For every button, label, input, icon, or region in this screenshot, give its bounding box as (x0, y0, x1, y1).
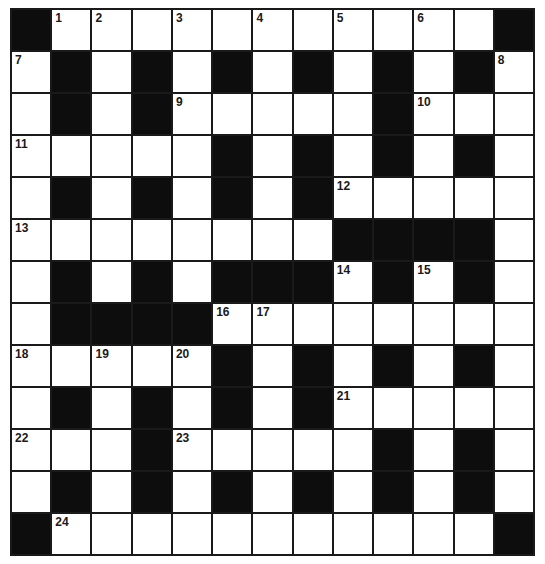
answer-cell[interactable] (253, 52, 291, 92)
answer-cell[interactable]: 4 (253, 10, 291, 50)
answer-cell[interactable] (334, 472, 372, 512)
answer-cell[interactable] (52, 220, 90, 260)
answer-cell[interactable] (294, 430, 332, 470)
answer-cell[interactable] (495, 346, 533, 386)
answer-cell[interactable]: 1 (52, 10, 90, 50)
answer-cell[interactable] (294, 10, 332, 50)
answer-cell[interactable] (253, 430, 291, 470)
answer-cell[interactable] (334, 304, 372, 344)
answer-cell[interactable] (173, 514, 211, 554)
answer-cell[interactable] (334, 52, 372, 92)
answer-cell[interactable] (213, 10, 251, 50)
answer-cell[interactable] (414, 346, 452, 386)
answer-cell[interactable] (173, 388, 211, 428)
answer-cell[interactable] (92, 472, 130, 512)
answer-cell[interactable]: 2 (92, 10, 130, 50)
answer-cell[interactable] (253, 514, 291, 554)
answer-cell[interactable] (253, 136, 291, 176)
answer-cell[interactable] (12, 178, 50, 218)
answer-cell[interactable] (334, 136, 372, 176)
answer-cell[interactable] (92, 430, 130, 470)
answer-cell[interactable] (334, 514, 372, 554)
answer-cell[interactable] (133, 10, 171, 50)
answer-cell[interactable]: 21 (334, 388, 372, 428)
answer-cell[interactable] (495, 220, 533, 260)
answer-cell[interactable] (374, 178, 412, 218)
answer-cell[interactable] (455, 514, 493, 554)
answer-cell[interactable] (133, 136, 171, 176)
answer-cell[interactable] (253, 94, 291, 134)
answer-cell[interactable] (414, 178, 452, 218)
answer-cell[interactable]: 3 (173, 10, 211, 50)
answer-cell[interactable]: 12 (334, 178, 372, 218)
answer-cell[interactable] (455, 178, 493, 218)
answer-cell[interactable] (374, 304, 412, 344)
answer-cell[interactable]: 19 (92, 346, 130, 386)
answer-cell[interactable] (414, 430, 452, 470)
answer-cell[interactable]: 24 (52, 514, 90, 554)
answer-cell[interactable] (455, 304, 493, 344)
answer-cell[interactable] (495, 388, 533, 428)
answer-cell[interactable] (334, 346, 372, 386)
answer-cell[interactable] (173, 52, 211, 92)
answer-cell[interactable] (253, 388, 291, 428)
answer-cell[interactable]: 13 (12, 220, 50, 260)
answer-cell[interactable] (173, 136, 211, 176)
answer-cell[interactable] (12, 94, 50, 134)
answer-cell[interactable] (414, 52, 452, 92)
answer-cell[interactable]: 15 (414, 262, 452, 302)
answer-cell[interactable] (374, 514, 412, 554)
answer-cell[interactable] (12, 472, 50, 512)
answer-cell[interactable] (253, 220, 291, 260)
answer-cell[interactable] (495, 178, 533, 218)
answer-cell[interactable] (92, 178, 130, 218)
answer-cell[interactable]: 14 (334, 262, 372, 302)
answer-cell[interactable] (92, 220, 130, 260)
answer-cell[interactable] (495, 136, 533, 176)
answer-cell[interactable] (294, 220, 332, 260)
answer-cell[interactable] (294, 514, 332, 554)
answer-cell[interactable]: 22 (12, 430, 50, 470)
answer-cell[interactable]: 9 (173, 94, 211, 134)
answer-cell[interactable] (133, 514, 171, 554)
answer-cell[interactable] (495, 472, 533, 512)
answer-cell[interactable] (414, 472, 452, 512)
answer-cell[interactable] (334, 430, 372, 470)
answer-cell[interactable]: 8 (495, 52, 533, 92)
answer-cell[interactable] (213, 220, 251, 260)
answer-cell[interactable] (374, 10, 412, 50)
answer-cell[interactable] (12, 388, 50, 428)
answer-cell[interactable] (173, 472, 211, 512)
answer-cell[interactable] (374, 388, 412, 428)
answer-cell[interactable]: 23 (173, 430, 211, 470)
answer-cell[interactable] (414, 304, 452, 344)
answer-cell[interactable] (213, 94, 251, 134)
answer-cell[interactable]: 10 (414, 94, 452, 134)
answer-cell[interactable] (334, 94, 372, 134)
answer-cell[interactable]: 11 (12, 136, 50, 176)
answer-cell[interactable] (52, 136, 90, 176)
answer-cell[interactable] (294, 94, 332, 134)
answer-cell[interactable] (213, 514, 251, 554)
answer-cell[interactable]: 20 (173, 346, 211, 386)
answer-cell[interactable]: 17 (253, 304, 291, 344)
answer-cell[interactable] (52, 430, 90, 470)
answer-cell[interactable] (92, 136, 130, 176)
answer-cell[interactable] (455, 94, 493, 134)
answer-cell[interactable] (92, 52, 130, 92)
answer-cell[interactable] (414, 514, 452, 554)
answer-cell[interactable] (455, 10, 493, 50)
answer-cell[interactable] (92, 262, 130, 302)
answer-cell[interactable]: 5 (334, 10, 372, 50)
answer-cell[interactable] (253, 346, 291, 386)
answer-cell[interactable] (92, 94, 130, 134)
answer-cell[interactable] (213, 430, 251, 470)
answer-cell[interactable] (92, 514, 130, 554)
answer-cell[interactable] (495, 430, 533, 470)
answer-cell[interactable]: 7 (12, 52, 50, 92)
answer-cell[interactable] (414, 388, 452, 428)
answer-cell[interactable]: 16 (213, 304, 251, 344)
answer-cell[interactable] (495, 262, 533, 302)
answer-cell[interactable] (495, 304, 533, 344)
answer-cell[interactable] (12, 304, 50, 344)
